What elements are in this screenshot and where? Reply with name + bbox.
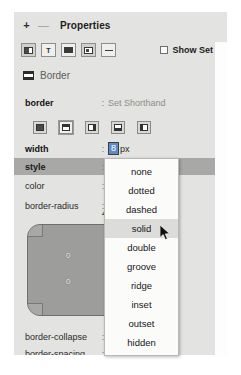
prop-label-border-collapse: border-collapse bbox=[14, 332, 98, 342]
dropdown-item-dashed[interactable]: dashed bbox=[105, 200, 178, 219]
text-icon: T bbox=[46, 47, 50, 54]
remove-property-icon[interactable]: — bbox=[38, 20, 47, 31]
collapse-icon bbox=[105, 50, 113, 51]
border-side-button-group bbox=[14, 116, 215, 138]
prop-label-border-radius: border-radius bbox=[14, 201, 98, 211]
grid-icon bbox=[84, 47, 93, 54]
grid-view-button[interactable] bbox=[81, 43, 96, 57]
corner-handle-top-left[interactable] bbox=[27, 224, 43, 237]
width-input[interactable]: 8 bbox=[108, 142, 119, 155]
dropdown-item-ridge[interactable]: ridge bbox=[105, 276, 178, 295]
border-left-button[interactable] bbox=[137, 121, 151, 134]
section-header-border[interactable]: Border bbox=[14, 64, 215, 86]
show-set-checkbox[interactable]: Show Set bbox=[160, 45, 213, 55]
prop-value-border[interactable]: Set Shorthand bbox=[108, 98, 215, 108]
checkbox-box[interactable] bbox=[160, 46, 168, 54]
border-right-icon bbox=[88, 124, 96, 131]
width-editor: 8 px bbox=[108, 142, 215, 155]
prop-value-width: 8 px bbox=[108, 142, 215, 155]
width-unit-label: px bbox=[120, 144, 130, 154]
border-top-icon bbox=[62, 124, 70, 131]
prop-label-border-spacing: border-spacing bbox=[14, 349, 98, 356]
prop-label-border: border bbox=[14, 98, 98, 108]
border-bottom-button[interactable] bbox=[111, 121, 125, 134]
prop-separator: : bbox=[98, 98, 108, 108]
dropdown-item-groove[interactable]: groove bbox=[105, 257, 178, 276]
border-left-icon bbox=[140, 124, 148, 131]
dropdown-item-double[interactable]: double bbox=[105, 238, 178, 257]
border-right-button[interactable] bbox=[85, 121, 99, 134]
dropdown-item-dotted[interactable]: dotted bbox=[105, 181, 178, 200]
dropdown-item-solid[interactable]: solid bbox=[105, 219, 178, 238]
prop-label-width: width bbox=[14, 144, 98, 154]
prop-separator: : bbox=[98, 144, 108, 154]
section-title: Border bbox=[40, 70, 70, 81]
add-property-icon[interactable]: + bbox=[22, 20, 31, 31]
border-top-button[interactable] bbox=[59, 121, 73, 134]
page-title: Properties bbox=[60, 20, 110, 31]
corner-handle-bottom-left[interactable] bbox=[27, 303, 43, 316]
border-all-button[interactable] bbox=[33, 121, 47, 134]
prop-row-width[interactable]: width : 8 px bbox=[14, 140, 215, 157]
dropdown-item-outset[interactable]: outset bbox=[105, 314, 178, 333]
layout-view-button[interactable] bbox=[21, 43, 36, 57]
box-preview-value-top[interactable]: 0 bbox=[66, 251, 70, 260]
box-view-button[interactable] bbox=[61, 43, 76, 57]
layout-icon bbox=[24, 47, 33, 54]
collapse-view-button[interactable] bbox=[101, 43, 116, 57]
show-set-label: Show Set bbox=[172, 45, 213, 55]
border-box-icon bbox=[23, 71, 34, 80]
box-preview-value-bottom[interactable]: 0 bbox=[66, 277, 70, 286]
dropdown-item-inset[interactable]: inset bbox=[105, 295, 178, 314]
dropdown-item-none[interactable]: none bbox=[105, 162, 178, 181]
dropdown-item-hidden[interactable]: hidden bbox=[105, 333, 178, 352]
border-style-dropdown[interactable]: nonedotteddashedsoliddoublegrooveridgein… bbox=[104, 158, 179, 356]
prop-row-border[interactable]: border : Set Shorthand bbox=[14, 94, 215, 111]
text-view-button[interactable]: T bbox=[41, 43, 56, 57]
prop-label-style: style bbox=[14, 162, 98, 172]
border-all-icon bbox=[36, 124, 44, 131]
border-bottom-icon bbox=[114, 124, 122, 131]
panel-scroll-gutter[interactable] bbox=[215, 42, 227, 355]
box-icon bbox=[64, 47, 73, 53]
panel-header: + — Properties bbox=[14, 12, 227, 38]
view-toolbar: T Show Set bbox=[14, 38, 227, 62]
prop-label-color: color bbox=[14, 181, 98, 191]
